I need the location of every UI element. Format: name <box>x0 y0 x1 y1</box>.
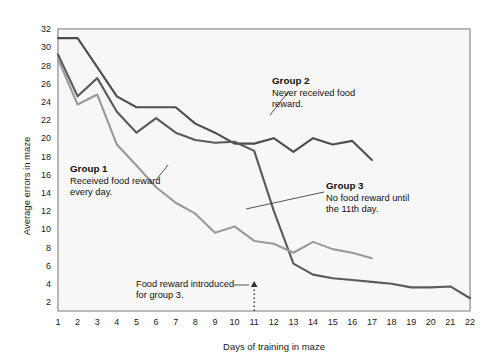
x-tick-label: 10 <box>230 317 240 327</box>
chart-figure: 2468101214161820222426283032 12345678910… <box>0 0 498 363</box>
y-tick-label: 10 <box>41 224 51 234</box>
x-tick-label: 11 <box>250 317 259 327</box>
annotation-line: Never received food <box>272 88 355 98</box>
x-tick-label: 9 <box>212 317 217 327</box>
x-tick-label: 1 <box>55 317 60 327</box>
y-tick-label: 18 <box>41 152 51 162</box>
y-tick-label: 2 <box>46 297 51 307</box>
x-tick-label: 5 <box>134 317 139 327</box>
annotation-line: for group 3. <box>136 290 184 300</box>
x-tick-label: 2 <box>75 317 80 327</box>
x-tick-label: 7 <box>173 317 178 327</box>
annotation-heading: Group 3 <box>326 180 364 191</box>
x-tick-label: 14 <box>308 317 318 327</box>
y-tick-label: 4 <box>46 279 51 289</box>
x-tick-label: 15 <box>328 317 338 327</box>
x-tick-label: 6 <box>154 317 159 327</box>
y-tick-label: 22 <box>41 115 51 125</box>
annotation-line: Food reward introduced <box>136 279 234 289</box>
y-tick-label: 16 <box>41 170 51 180</box>
x-tick-label: 22 <box>465 317 475 327</box>
y-axis-title: Average errors in maze <box>21 137 32 236</box>
plot-frame <box>58 29 470 311</box>
annotation-line: Received food reward <box>70 176 160 186</box>
x-tick-label: 8 <box>193 317 198 327</box>
y-tick-label: 28 <box>41 61 51 71</box>
x-axis-title: Days of training in maze <box>223 341 325 352</box>
y-tick-label: 12 <box>41 206 51 216</box>
x-tick-label: 4 <box>114 317 119 327</box>
x-tick-label: 3 <box>95 317 100 327</box>
y-tick-label: 32 <box>41 24 51 34</box>
y-tick-label: 30 <box>41 42 51 52</box>
y-tick-label: 8 <box>46 243 51 253</box>
x-tick-label: 21 <box>445 317 455 327</box>
y-tick-label: 26 <box>41 79 51 89</box>
annotation-line: every day. <box>70 187 112 197</box>
x-tick-label: 17 <box>367 317 377 327</box>
x-tick-label: 12 <box>269 317 279 327</box>
y-tick-label: 6 <box>46 261 51 271</box>
x-tick-label: 18 <box>387 317 397 327</box>
x-tick-label: 16 <box>347 317 357 327</box>
x-tick-label: 20 <box>426 317 436 327</box>
annotation-heading: Group 2 <box>272 75 310 86</box>
y-tick-label: 20 <box>41 133 51 143</box>
y-tick-label: 24 <box>41 97 51 107</box>
x-tick-label: 13 <box>288 317 298 327</box>
annotation-line: No food reward until <box>326 193 409 203</box>
annotation-heading: Group 1 <box>70 163 108 174</box>
annotation-line: the 11th day. <box>326 204 378 214</box>
x-tick-label: 19 <box>406 317 416 327</box>
y-tick-label: 14 <box>41 188 51 198</box>
